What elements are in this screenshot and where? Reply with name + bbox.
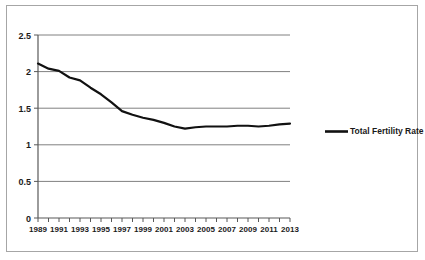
y-tick-label: 0.5 xyxy=(18,177,31,187)
gridlines xyxy=(38,35,290,181)
y-tick-label: 1 xyxy=(26,140,31,150)
y-tick-label: 0 xyxy=(26,214,31,224)
x-tick-labels: 1989199119931995199719992001200320052007… xyxy=(29,225,299,234)
y-tick-label: 2 xyxy=(26,67,31,77)
x-tick-label: 1989 xyxy=(29,225,47,234)
x-tick-label: 2003 xyxy=(176,225,194,234)
legend[interactable]: Total Fertility Rate xyxy=(325,126,424,136)
y-tick-labels: 2.5 2 1.5 1 0.5 0 xyxy=(18,31,31,224)
y-tick-label: 1.5 xyxy=(18,104,31,114)
x-tick-label: 2007 xyxy=(218,225,236,234)
x-tick-label: 1997 xyxy=(113,225,131,234)
x-tick-marks xyxy=(38,218,290,222)
chart-figure: 2.5 2 1.5 1 0.5 0 1989199119931995199719… xyxy=(0,0,425,260)
x-tick-label: 2011 xyxy=(260,225,278,234)
series-line[interactable] xyxy=(38,64,290,129)
x-tick-label: 1995 xyxy=(92,225,110,234)
x-tick-label: 1999 xyxy=(134,225,152,234)
y-tick-label: 2.5 xyxy=(18,31,31,41)
x-tick-label: 1993 xyxy=(71,225,89,234)
x-tick-label: 1991 xyxy=(50,225,68,234)
x-tick-label: 2009 xyxy=(239,225,257,234)
legend-label: Total Fertility Rate xyxy=(350,126,424,136)
x-tick-label: 2013 xyxy=(281,225,299,234)
line-chart[interactable]: 2.5 2 1.5 1 0.5 0 1989199119931995199719… xyxy=(0,0,425,260)
x-tick-label: 2005 xyxy=(197,225,215,234)
series-total-fertility-rate[interactable] xyxy=(38,64,290,129)
x-tick-label: 2001 xyxy=(155,225,173,234)
